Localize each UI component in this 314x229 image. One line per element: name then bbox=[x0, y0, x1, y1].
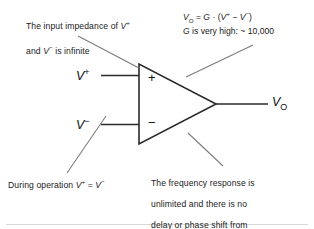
plus-sign-icon: + bbox=[148, 71, 156, 84]
note-during-operation-equals: = bbox=[85, 180, 95, 190]
opamp-diagram-canvas: The input impedance of V+ and V− is infi… bbox=[0, 0, 314, 229]
label-noninverting-input: V+ bbox=[76, 67, 90, 83]
equation-equals: = bbox=[194, 12, 204, 22]
note-frequency-response: The frequency response is unlimited and … bbox=[151, 167, 311, 229]
label-inverting-input: V− bbox=[76, 116, 90, 132]
note-during-operation-text: During operation bbox=[8, 180, 76, 190]
gain-equation-line1: VO = G · (V+ − V−) bbox=[183, 8, 274, 26]
leader-line-frequency-response bbox=[188, 133, 223, 166]
gain-equation-block: VO = G · (V+ − V−) G is very high: ~ 10,… bbox=[183, 8, 274, 37]
equation-close-paren: ) bbox=[249, 12, 252, 22]
note-input-impedance-text3: is infinite bbox=[53, 46, 90, 56]
note-input-impedance: The input impedance of V+ and V− is infi… bbox=[26, 8, 156, 56]
equation-minus-operator: − bbox=[230, 12, 240, 22]
note-frequency-response-line2: unlimited and there is no bbox=[151, 199, 247, 209]
label-noninverting-sup: + bbox=[84, 67, 89, 77]
minus-sign-icon: − bbox=[148, 116, 156, 129]
label-output-sub: O bbox=[280, 102, 287, 112]
note-input-impedance-sup-plus: + bbox=[126, 20, 130, 27]
label-output: VO bbox=[272, 95, 287, 112]
note-frequency-response-line1: The frequency response is bbox=[151, 178, 255, 188]
equation-dot-operator: · bbox=[210, 12, 218, 22]
gain-magnitude-symbol: G bbox=[183, 26, 190, 36]
note-frequency-response-line3: delay or phase shift from bbox=[151, 220, 248, 229]
note-during-operation-sup-minus: − bbox=[101, 178, 105, 185]
note-during-operation: During operation V+ = V− bbox=[8, 177, 148, 190]
gain-magnitude-text: is very high: ~ 10,000 bbox=[190, 26, 274, 36]
label-inverting-sup: − bbox=[84, 116, 89, 126]
note-input-impedance-text2: and bbox=[26, 46, 43, 56]
gain-equation-line2: G is very high: ~ 10,000 bbox=[183, 26, 274, 37]
leader-line-equation bbox=[186, 45, 253, 77]
note-input-impedance-line2: and V− is infinite bbox=[26, 46, 90, 56]
note-input-impedance-text1: The input impedance of bbox=[26, 21, 121, 31]
note-input-impedance-line1: The input impedance of V+ bbox=[26, 21, 130, 31]
